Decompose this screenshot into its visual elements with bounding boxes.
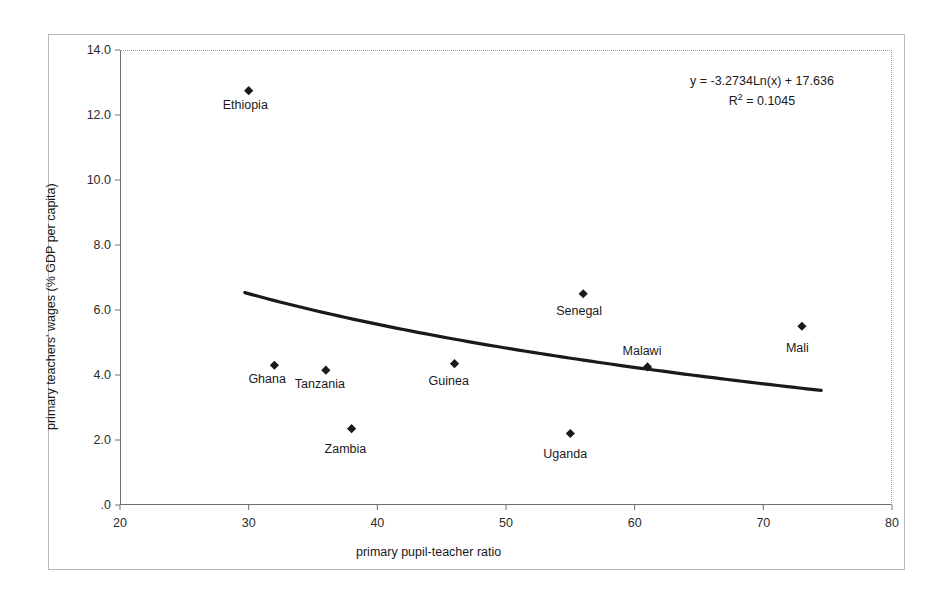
r-squared-exponent: 2: [738, 92, 743, 102]
y-axis-tick-label: 2.0: [51, 434, 111, 447]
y-axis-tick-label: 4.0: [51, 369, 111, 382]
x-axis-title: primary pupil-teacher ratio: [356, 545, 501, 559]
y-axis-tick-label: 14.0: [51, 44, 111, 57]
y-axis-tick-label: 8.0: [51, 239, 111, 252]
x-axis-tick-label: 30: [219, 517, 279, 530]
y-axis-tick-label: 12.0: [51, 109, 111, 122]
data-point-label: Uganda: [543, 448, 587, 461]
x-axis-tick-label: 50: [476, 517, 536, 530]
y-axis-tick-label: .0: [51, 499, 111, 512]
data-point-label: Senegal: [556, 305, 602, 318]
data-point-label: Guinea: [429, 375, 469, 388]
x-axis-tick-label: 20: [90, 517, 150, 530]
data-point-label: Ethiopia: [223, 99, 268, 112]
data-point-label: Ghana: [248, 373, 286, 386]
y-axis-title: primary teachers' wages (% GDP per capit…: [44, 183, 58, 430]
data-point-label: Mali: [786, 342, 809, 355]
x-axis-tick-label: 60: [605, 517, 665, 530]
x-axis-tick-label: 80: [862, 517, 922, 530]
plot-area: [120, 50, 892, 505]
y-axis-tick-label: 10.0: [51, 174, 111, 187]
data-point-label: Malawi: [623, 345, 662, 358]
r-squared-value: = 0.1045: [746, 94, 795, 108]
chart-figure: .02.04.06.08.010.012.014.0 2030405060708…: [0, 0, 950, 598]
r-squared-line: R2 = 0.1045: [690, 91, 834, 111]
x-axis-tick-label: 70: [733, 517, 793, 530]
x-axis-tick-label: 40: [347, 517, 407, 530]
data-point-label: Tanzania: [295, 378, 345, 391]
y-axis-tick-label: 6.0: [51, 304, 111, 317]
equation-line: y = -3.2734Ln(x) + 17.636: [690, 72, 834, 91]
data-point-label: Zambia: [325, 443, 367, 456]
r-squared-symbol: R: [729, 94, 738, 108]
trendline-equation-annotation: y = -3.2734Ln(x) + 17.636 R2 = 0.1045: [690, 72, 834, 111]
